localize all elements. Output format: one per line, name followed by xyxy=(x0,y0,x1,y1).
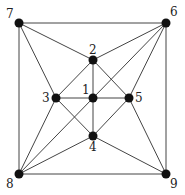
edge-8-1 xyxy=(19,98,93,174)
edge-6-1 xyxy=(93,23,166,98)
edge-8-4 xyxy=(19,136,93,174)
node-3 xyxy=(52,94,61,103)
node-label-2: 2 xyxy=(89,43,97,57)
graph-diagram: 123456789 xyxy=(0,0,185,195)
node-1 xyxy=(89,94,98,103)
edge-6-2 xyxy=(93,23,166,60)
edge-6-5 xyxy=(129,23,166,98)
node-6 xyxy=(162,19,171,28)
edge-4-5 xyxy=(93,98,129,136)
edge-8-3 xyxy=(19,98,56,174)
node-label-8: 8 xyxy=(6,177,14,191)
node-label-6: 6 xyxy=(170,5,178,19)
node-8 xyxy=(15,170,24,179)
node-label-1: 1 xyxy=(82,83,90,97)
edge-9-5 xyxy=(129,98,166,174)
edge-9-4 xyxy=(93,136,166,174)
node-5 xyxy=(125,94,134,103)
node-label-4: 4 xyxy=(89,140,97,154)
node-label-7: 7 xyxy=(6,7,14,21)
node-label-3: 3 xyxy=(42,91,50,105)
edge-7-3 xyxy=(19,23,56,98)
node-label-5: 5 xyxy=(135,91,143,105)
graph-svg: 123456789 xyxy=(0,0,185,195)
node-7 xyxy=(15,19,24,28)
node-label-9: 9 xyxy=(170,177,178,191)
edge-7-2 xyxy=(19,23,93,60)
